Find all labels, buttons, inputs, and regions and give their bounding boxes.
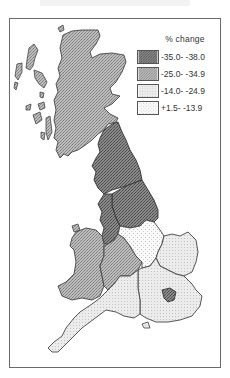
legend-label: -35.0- -38.0 [161, 52, 205, 62]
legend-swatch-class1 [137, 50, 159, 64]
legend-swatch-class3 [137, 84, 159, 98]
region-isle-of-wight [142, 322, 150, 328]
legend-swatch-class2 [137, 67, 159, 81]
region-wales [58, 228, 104, 300]
legend-item: -35.0- -38.0 [137, 49, 221, 65]
region-anglesey [72, 224, 80, 232]
legend-title: % change [149, 34, 221, 44]
legend-label: -14.0- -24.9 [161, 86, 205, 96]
legend-item: -25.0- -34.9 [137, 66, 221, 82]
legend-label: +1.5- -13.9 [161, 103, 202, 113]
legend-item: -14.0- -24.9 [137, 83, 221, 99]
legend-swatch-class4 [137, 101, 159, 115]
map-legend: % change -35.0- -38.0 -25.0- -34.9 -14.0… [137, 34, 221, 117]
cropped-title-remnant [40, 0, 190, 6]
legend-label: -25.0- -34.9 [161, 69, 205, 79]
legend-item: +1.5- -13.9 [137, 100, 221, 116]
